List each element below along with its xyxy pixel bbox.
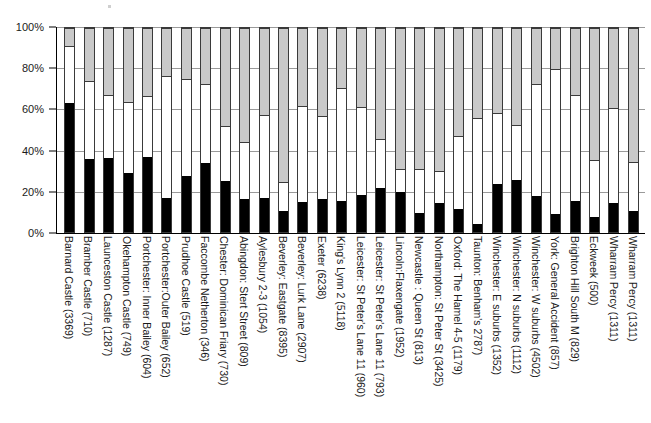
bar-segment-1 (512, 180, 521, 232)
bar-slot (604, 27, 623, 233)
bar-segment-1 (162, 198, 171, 232)
bar-group (57, 27, 645, 233)
stacked-bar[interactable] (278, 27, 289, 233)
x-label-slot: Portchester:Outer Bailey (652) (156, 236, 175, 421)
stacked-bar[interactable] (628, 27, 639, 233)
bar-segment-3 (571, 28, 580, 95)
bar-slot (254, 27, 273, 233)
stacked-bar[interactable] (375, 27, 386, 233)
stacked-bar[interactable] (297, 27, 308, 233)
stacked-bar[interactable] (317, 27, 328, 233)
bar-segment-3 (279, 28, 288, 182)
bar-slot (585, 27, 604, 233)
bar-slot (79, 27, 98, 233)
stacked-bar[interactable] (336, 27, 347, 233)
bar-segment-2 (85, 81, 94, 159)
x-axis-label: Wharram Percy (1311) (628, 236, 639, 341)
bar-segment-3 (65, 28, 74, 46)
bar-segment-3 (512, 28, 521, 125)
x-axis-label: Prudhoe Castle (519) (180, 236, 191, 336)
bar-segment-3 (260, 28, 269, 115)
x-label-slot: Launceston Castle (1287) (98, 236, 117, 421)
stacked-bar[interactable] (589, 27, 600, 233)
stacked-bar[interactable] (434, 27, 445, 233)
bar-segment-1 (279, 211, 288, 232)
x-axis-label: York: General Accident (857) (550, 236, 561, 370)
bar-segment-3 (124, 28, 133, 102)
stacked-bar[interactable] (550, 27, 561, 233)
stacked-bar[interactable] (608, 27, 619, 233)
bar-segment-3 (221, 28, 230, 126)
bar-segment-2 (240, 142, 249, 199)
stacked-bar[interactable] (161, 27, 172, 233)
stacked-bar[interactable] (414, 27, 425, 233)
bar-segment-3 (201, 28, 210, 84)
stacked-bar[interactable] (103, 27, 114, 233)
bar-segment-3 (396, 28, 405, 169)
bar-segment-3 (493, 28, 502, 113)
stacked-bar[interactable] (84, 27, 95, 233)
bar-segment-1 (415, 213, 424, 232)
stacked-bar[interactable] (570, 27, 581, 233)
bar-segment-1 (571, 201, 580, 232)
bar-segment-3 (609, 28, 618, 108)
x-axis-label: Exeter (6238) (317, 236, 328, 300)
x-label-slot: Wharram Percy (1311) (604, 236, 623, 421)
stacked-bar[interactable] (356, 27, 367, 233)
bar-segment-2 (298, 106, 307, 203)
bar-segment-1 (396, 192, 405, 232)
x-label-slot: Leicester: St Peter's Lane 11 (960) (351, 236, 370, 421)
bar-segment-1 (221, 181, 230, 232)
stacked-bar[interactable] (259, 27, 270, 233)
bar-segment-3 (532, 28, 541, 84)
stacked-bar[interactable] (181, 27, 192, 233)
x-label-slot: Newcastle : Queen St (813) (409, 236, 428, 421)
stacked-bar[interactable] (472, 27, 483, 233)
x-axis-label: Beverley: Eastgate (8395) (278, 236, 289, 357)
x-label-slot: Oxford: The Hamel 4-5 (1179) (448, 236, 467, 421)
x-axis-label: Bramber Castle (710) (83, 236, 94, 336)
x-axis-label: Launceston Castle (1287) (102, 236, 113, 356)
stacked-bar[interactable] (142, 27, 153, 233)
bar-segment-3 (143, 28, 152, 96)
x-axis-label: Aylesbury 2-3 (1054) (258, 236, 269, 333)
bar-segment-1 (609, 203, 618, 232)
bar-slot (216, 27, 235, 233)
stacked-bar[interactable] (395, 27, 406, 233)
bar-segment-2 (493, 113, 502, 184)
x-label-slot: Prudhoe Castle (519) (176, 236, 195, 421)
bar-segment-3 (435, 28, 444, 171)
bar-segment-1 (590, 217, 599, 232)
stacked-bar[interactable] (123, 27, 134, 233)
stacked-bar[interactable] (64, 27, 75, 233)
bar-slot (624, 27, 643, 233)
x-label-slot: Leicester: St Peter's Lane 11 (793) (371, 236, 390, 421)
y-tick-mark (49, 68, 56, 69)
stacked-bar[interactable] (200, 27, 211, 233)
stacked-bar[interactable] (492, 27, 503, 233)
bar-segment-1 (182, 176, 191, 232)
x-label-slot: Lincoln:Flaxengate (1952) (390, 236, 409, 421)
x-axis-label: Lincoln:Flaxengate (1952) (394, 236, 405, 357)
bar-segment-2 (260, 115, 269, 199)
bar-segment-3 (318, 28, 327, 116)
bar-segment-2 (571, 95, 580, 201)
stacked-bar[interactable] (453, 27, 464, 233)
bar-segment-2 (629, 162, 638, 211)
stacked-bar[interactable] (239, 27, 250, 233)
bar-slot (488, 27, 507, 233)
x-label-slot: Eckweek (500) (585, 236, 604, 421)
stacked-bar[interactable] (531, 27, 542, 233)
x-axis-label: Winchester: E suburbs (1352) (492, 236, 503, 375)
y-tick-mark (49, 233, 56, 234)
bar-segment-1 (143, 157, 152, 232)
x-axis-label: Winchester: N suburbs (1112) (511, 236, 522, 374)
stacked-bar[interactable] (511, 27, 522, 233)
bar-segment-1 (124, 173, 133, 232)
bar-slot (138, 27, 157, 233)
stacked-bar[interactable] (220, 27, 231, 233)
x-label-slot: Aylesbury 2-3 (1054) (254, 236, 273, 421)
x-axis-label: Taunton: Benham's 2787) (472, 236, 483, 355)
bar-segment-3 (182, 28, 191, 79)
x-label-slot: Chester: Dominican Friary (730) (215, 236, 234, 421)
